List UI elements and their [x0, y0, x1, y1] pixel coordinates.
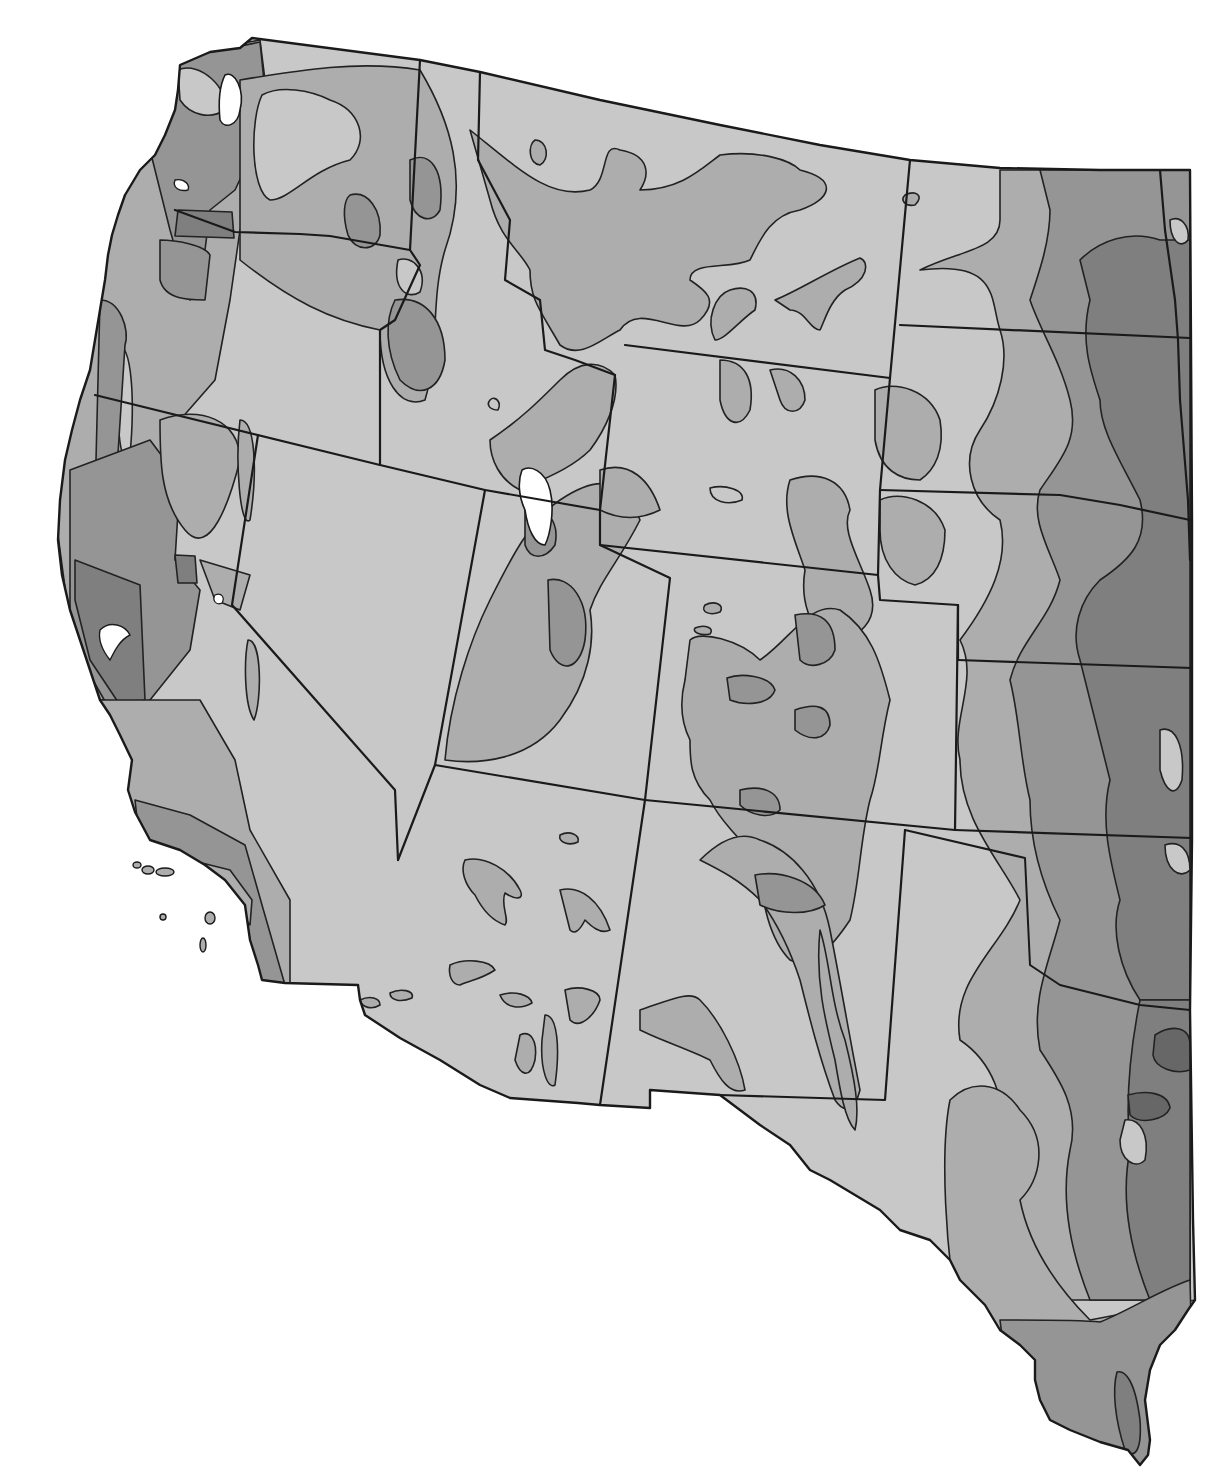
channel-islands: [133, 862, 215, 952]
western-us-shaded-map: [0, 0, 1228, 1483]
lake-tahoe: [214, 594, 223, 604]
puget-sound: [219, 74, 241, 125]
map-container: [0, 0, 1228, 1483]
